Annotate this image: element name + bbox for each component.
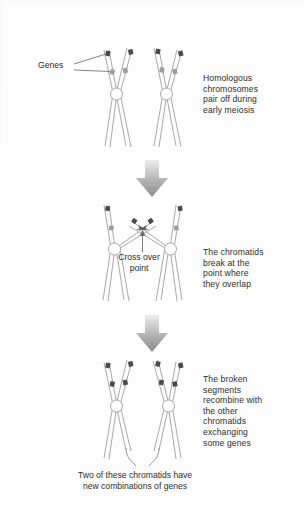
stage-1-note: Homologous chromosomes pair off during e… xyxy=(203,73,299,115)
stage-2-note: The chromatids break at the point where … xyxy=(203,247,299,289)
genes-label: Genes xyxy=(38,60,63,70)
stage-3-note: The broken segments recombine with the o… xyxy=(203,374,299,448)
figure-caption: Two of these chromatids have new combina… xyxy=(30,470,240,492)
cross-over-point-label: Cross over point xyxy=(108,252,170,273)
diagram-canvas: Genes Cross over point Homologous chromo… xyxy=(0,0,304,528)
